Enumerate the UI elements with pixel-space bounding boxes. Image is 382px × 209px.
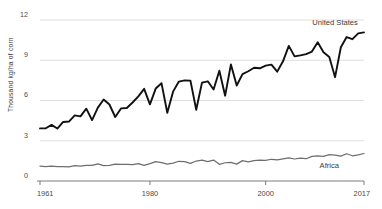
x-tick-label: 1961 (37, 189, 53, 198)
series-label-united-states: United States (312, 18, 358, 27)
y-tick-label: 3 (24, 131, 28, 140)
series-line-africa (40, 154, 364, 167)
series-label-africa: Africa (320, 161, 340, 170)
series-line-united-states (40, 32, 364, 128)
x-tick-label: 2000 (257, 189, 273, 198)
x-axis-group: 1961198020002017 (37, 181, 370, 198)
chart-container: 036912 1961198020002017 United StatesAfr… (0, 0, 382, 209)
series-group (40, 32, 364, 167)
y-axis-label: Thousand kg/ha of corn (7, 37, 15, 112)
y-tick-label: 6 (24, 90, 28, 99)
y-tick-label: 0 (24, 171, 28, 180)
gridlines-group (40, 20, 364, 141)
y-tick-label: 12 (20, 10, 28, 19)
series-labels-group: United StatesAfrica (312, 18, 358, 170)
y-axis-ticks-group: 036912 (20, 10, 28, 180)
x-tick-label: 1980 (142, 189, 158, 198)
y-tick-label: 9 (24, 50, 28, 59)
x-tick-label: 2017 (354, 189, 370, 198)
line-chart: 036912 1961198020002017 United StatesAfr… (0, 0, 382, 209)
